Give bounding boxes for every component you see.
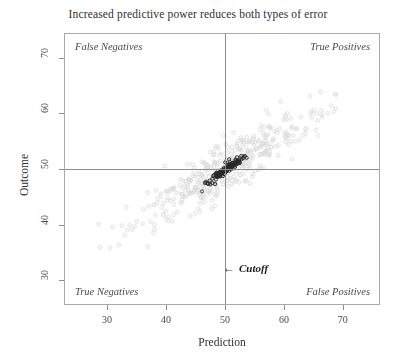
y-tick-mark (59, 169, 64, 170)
quadrant-label-true-negatives: True Negatives (75, 286, 138, 297)
y-tick-label: 30 (39, 270, 50, 290)
y-tick-mark (59, 225, 64, 226)
scatter-plot-figure: Increased predictive power reduces both … (0, 0, 396, 363)
x-tick-mark (166, 305, 167, 310)
x-tick-mark (343, 305, 344, 310)
chart-title: Increased predictive power reduces both … (0, 8, 396, 20)
x-tick-label: 30 (102, 314, 112, 325)
y-tick-mark (59, 280, 64, 281)
y-tick-label: 60 (39, 103, 50, 123)
scatter-point-canvas (65, 34, 379, 304)
y-tick-mark (59, 58, 64, 59)
y-axis-title: Outcome (18, 125, 30, 225)
y-tick-mark (59, 113, 64, 114)
y-tick-label: 50 (39, 159, 50, 179)
x-tick-label: 70 (338, 314, 348, 325)
y-tick-label: 70 (39, 48, 50, 68)
x-tick-mark (284, 305, 285, 310)
left-arrow-icon: ← (223, 262, 235, 274)
x-tick-mark (225, 305, 226, 310)
cutoff-label: Cutoff (239, 262, 268, 274)
x-tick-label: 50 (220, 314, 230, 325)
quadrant-label-true-positives: True Positives (310, 41, 370, 52)
quadrant-label-false-positives: False Positives (306, 286, 370, 297)
plot-area: False Negatives True Positives True Nega… (64, 33, 380, 305)
y-tick-label: 40 (39, 215, 50, 235)
x-tick-label: 60 (279, 314, 289, 325)
quadrant-label-false-negatives: False Negatives (75, 41, 142, 52)
x-axis-title: Prediction (64, 336, 380, 348)
x-tick-mark (107, 305, 108, 310)
cutoff-annotation: ← Cutoff (223, 262, 268, 274)
x-tick-label: 40 (161, 314, 171, 325)
